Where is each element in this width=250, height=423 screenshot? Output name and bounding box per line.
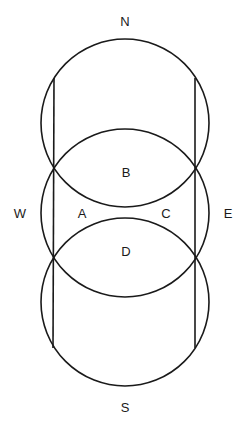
middle-circle bbox=[41, 129, 209, 297]
label-region-c: C bbox=[161, 206, 170, 221]
label-west: W bbox=[14, 206, 27, 221]
label-north: N bbox=[120, 14, 129, 29]
label-region-d: D bbox=[121, 244, 130, 259]
label-east: E bbox=[224, 206, 233, 221]
compass-circle-diagram: N S W E A B C D bbox=[0, 0, 250, 423]
diagram-canvas: N S W E A B C D bbox=[0, 0, 250, 423]
lines-group bbox=[53, 78, 195, 348]
left-vertical-line bbox=[53, 78, 54, 348]
label-region-b: B bbox=[122, 165, 131, 180]
top-circle bbox=[41, 39, 209, 207]
label-south: S bbox=[121, 400, 130, 415]
label-region-a: A bbox=[78, 206, 87, 221]
circles-group bbox=[41, 39, 209, 386]
